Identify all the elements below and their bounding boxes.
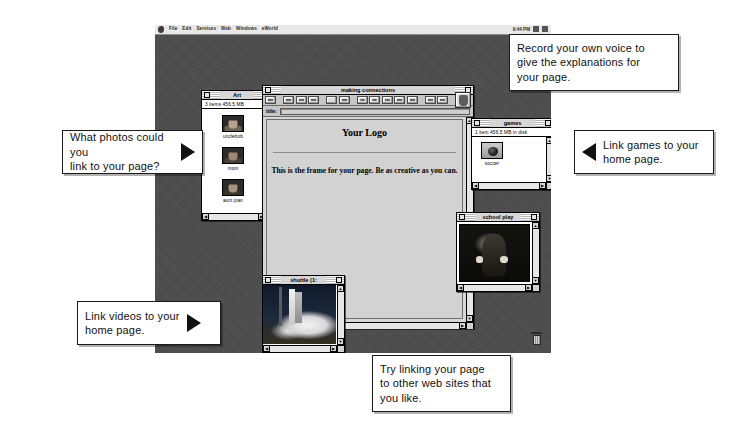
list-item-label: soccer — [475, 161, 509, 166]
clock-icon[interactable] — [357, 96, 368, 104]
balloon-help-icon[interactable] — [542, 26, 548, 32]
chart-icon[interactable] — [394, 96, 405, 104]
app-switcher-icon[interactable] — [533, 26, 539, 32]
window-shuttle-titlebar[interactable]: shuttle (1: — [263, 276, 344, 285]
menu-bar[interactable]: File Edit Services Web Windows eWorld 9:… — [155, 25, 551, 35]
menu-item-windows[interactable]: Windows — [236, 27, 257, 32]
list-item-label: mom — [216, 166, 250, 171]
callout-web-sites-text: Try linking your page to other web sites… — [380, 362, 491, 406]
scroll-left-icon[interactable]: ◀ — [263, 345, 270, 352]
callout-record-voice-text: Record your own voice to give the explan… — [517, 41, 645, 85]
menu-item-services[interactable]: Services — [196, 27, 216, 32]
scrollbar-horizontal[interactable]: ◀ ▶ — [472, 182, 546, 189]
window-school-play[interactable]: school play ▲ ▼ — [456, 212, 540, 292]
scroll-up-icon[interactable]: ▲ — [532, 222, 539, 229]
list-item-label: aunt joan — [216, 198, 250, 203]
menu-item-web[interactable]: Web — [221, 27, 231, 32]
shuttle-launch-photo — [263, 285, 336, 344]
scrollbar-horizontal[interactable]: ◀ ▶ — [457, 284, 532, 291]
apple-icon[interactable] — [158, 26, 164, 33]
zoom-icon[interactable] — [531, 214, 537, 220]
resize-handle[interactable] — [546, 182, 551, 189]
list-item[interactable]: aunt joan — [216, 179, 250, 203]
close-icon[interactable] — [265, 87, 271, 93]
list-item[interactable]: soccer — [475, 142, 509, 166]
resize-handle[interactable] — [466, 322, 473, 329]
shape-icon[interactable] — [339, 96, 350, 104]
window-games[interactable]: games 1 item 456.5 MB in disk soccer ▲ ▼ — [471, 118, 551, 190]
window-school-play-body[interactable]: ▲ ▼ ◀ ▶ — [457, 222, 539, 291]
title-input[interactable] — [280, 108, 470, 115]
window-shuttle-title: shuttle (1: — [281, 276, 326, 284]
window-school-play-titlebar[interactable]: school play — [457, 213, 539, 222]
scrollbar-vertical[interactable]: ▲ ▼ — [546, 137, 551, 182]
list-item[interactable]: mom — [216, 147, 250, 171]
window-games-titlebar[interactable]: games — [472, 119, 551, 128]
mc-title-row[interactable]: title: — [263, 106, 473, 117]
arrow-right-icon — [181, 143, 195, 161]
scroll-down-icon[interactable]: ▼ — [337, 338, 344, 345]
scrollbar-horizontal[interactable]: ◀ ▶ — [263, 345, 337, 352]
callout-games: Link games to your home page. — [574, 130, 714, 174]
window-shuttle-body[interactable]: ▲ ▼ ◀ ▶ — [263, 285, 344, 352]
callout-web-sites: Try linking your page to other web sites… — [372, 355, 511, 412]
page-logo-placeholder: Your Logo — [267, 127, 462, 138]
window-art-title: Art — [220, 91, 254, 99]
menu-item-edit[interactable]: Edit — [182, 27, 191, 32]
scroll-down-icon[interactable]: ▼ — [466, 315, 473, 322]
scroll-left-icon[interactable]: ◀ — [202, 213, 209, 220]
trash-icon[interactable] — [531, 332, 542, 345]
scroll-left-icon[interactable]: ◀ — [472, 182, 479, 189]
resize-handle[interactable] — [532, 284, 539, 291]
zoom-icon[interactable] — [336, 277, 342, 283]
window-games-body[interactable]: soccer ▲ ▼ ◀ ▶ — [472, 137, 551, 189]
text-a-icon[interactable] — [296, 96, 307, 104]
divider — [273, 152, 456, 153]
scroll-right-icon[interactable]: ▶ — [525, 284, 532, 291]
close-icon[interactable] — [265, 277, 271, 283]
callout-games-text: Link games to your home page. — [603, 138, 699, 167]
image-icon[interactable] — [407, 96, 418, 104]
zoom-icon[interactable] — [545, 120, 551, 126]
scroll-down-icon[interactable]: ▼ — [532, 277, 539, 284]
paint-bucket-icon[interactable] — [455, 92, 471, 108]
list-item[interactable]: unclebob — [216, 115, 250, 139]
scroll-up-icon[interactable]: ▲ — [337, 285, 344, 292]
scrollbar-vertical[interactable]: ▲ ▼ — [532, 222, 539, 284]
scroll-right-icon[interactable]: ▶ — [539, 182, 546, 189]
scroll-right-icon[interactable]: ▶ — [459, 322, 466, 329]
link-icon[interactable] — [437, 96, 448, 104]
line-icon[interactable] — [326, 96, 337, 104]
close-icon[interactable] — [474, 120, 480, 126]
menu-clock[interactable]: 9:44 PM — [513, 27, 530, 32]
list-item-label: unclebob — [216, 134, 250, 139]
scroll-left-icon[interactable]: ◀ — [457, 284, 464, 291]
arrow-left-icon — [582, 143, 596, 161]
record-icon[interactable] — [369, 96, 380, 104]
page-icon[interactable] — [425, 96, 436, 104]
menu-item-eworld[interactable]: eWorld — [262, 27, 278, 32]
resize-handle[interactable] — [337, 345, 344, 352]
window-games-infobar: 1 item 456.5 MB in disk — [472, 128, 551, 137]
window-shuttle[interactable]: shuttle (1: ▲ ▼ — [262, 275, 345, 353]
menu-item-file[interactable]: File — [169, 27, 177, 32]
mc-toolbar[interactable] — [263, 95, 473, 106]
callout-photos: What photos could you link to your page? — [62, 130, 203, 174]
trash-can — [533, 335, 541, 345]
close-icon[interactable] — [459, 214, 465, 220]
video-icon[interactable] — [382, 96, 393, 104]
text-a-icon[interactable] — [308, 96, 319, 104]
page-body-text: This is the frame for your page. Be as c… — [267, 166, 462, 176]
scroll-down-icon[interactable]: ▼ — [546, 175, 551, 182]
close-icon[interactable] — [204, 92, 210, 98]
scrollbar-vertical[interactable]: ▲ ▼ — [337, 285, 344, 345]
scrollbar-horizontal[interactable]: ◀ ▶ — [202, 213, 265, 220]
portrait-photo — [222, 179, 244, 196]
window-games-title: games — [490, 119, 535, 127]
text-a-icon[interactable] — [283, 96, 294, 104]
scroll-right-icon[interactable]: ▶ — [330, 345, 337, 352]
window-school-play-title: school play — [475, 213, 521, 221]
window-mc-titlebar[interactable]: making connections — [263, 86, 473, 95]
scroll-up-icon[interactable]: ▲ — [546, 137, 551, 144]
align-icon[interactable] — [265, 96, 276, 104]
